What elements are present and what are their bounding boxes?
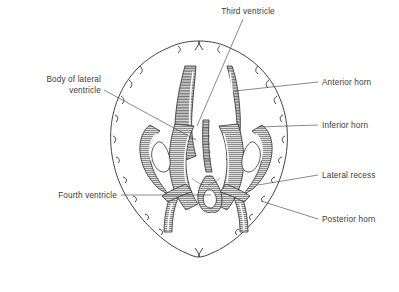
label-body-of-lateral-ventricle-line1: Body of lateral	[46, 75, 101, 84]
ventricles-of-brain-diagram: Third ventricle Body of lateral ventricl…	[0, 0, 399, 292]
label-anterior-horn: Anterior horn	[322, 78, 372, 87]
brain-outline	[111, 41, 288, 257]
label-fourth-ventricle: Fourth ventricle	[58, 191, 117, 200]
label-third-ventricle: Third ventricle	[221, 7, 275, 16]
label-posterior-horn: Posterior horn	[322, 215, 376, 224]
label-lateral-recess: Lateral recess	[322, 171, 376, 180]
leader-posterior-horn	[261, 201, 318, 219]
label-inferior-horn: Inferior horn	[322, 121, 368, 130]
label-body-of-lateral-ventricle-line2: ventricle	[69, 86, 101, 95]
